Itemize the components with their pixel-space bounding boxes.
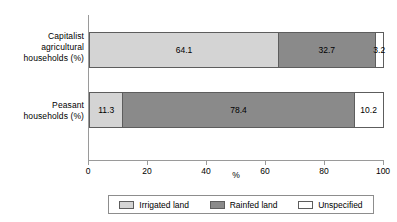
bar-segment-value: 10.2 [360,105,377,115]
legend-item-irrigated: Irrigated land [119,200,189,210]
x-axis-tick-mark [324,161,325,165]
category-label-peasant: Peasant households (%) [4,100,84,122]
x-axis-tick-mark [383,161,384,165]
bar-segment-value: 3.2 [373,45,385,55]
legend-label: Unspecified [318,200,362,210]
bar-row-peasant: 11.3 78.4 10.2 [89,92,384,128]
category-label-line: households (%) [4,53,84,64]
x-axis-tick-mark [88,161,89,165]
bar-segment-irrigated: 64.1 [89,32,278,68]
category-label-line: Capitalist [4,31,84,42]
x-axis-tick-mark [265,161,266,165]
legend-swatch-icon [298,201,313,209]
category-label-line: households (%) [4,111,84,122]
x-axis-tick-mark [147,161,148,165]
x-axis-tick-mark [206,161,207,165]
x-axis-line [88,160,384,161]
bar-segment-rainfed: 32.7 [278,32,374,68]
legend-item-rainfed: Rainfed land [210,200,278,210]
chart-legend: Irrigated land Rainfed land Unspecified [108,195,374,214]
plot-area: 020406080100 64.1 32.7 3.2 11.3 78.4 10.… [88,15,383,160]
legend-label: Irrigated land [139,200,189,210]
bar-segment-rainfed: 78.4 [122,92,353,128]
bar-segment-value: 32.7 [319,45,336,55]
category-label-capitalist: Capitalist agricultural households (%) [4,31,84,64]
category-label-line: agricultural [4,42,84,53]
category-label-line: Peasant [4,100,84,111]
bar-segment-value: 78.4 [230,105,247,115]
x-axis-title: % [88,170,384,180]
legend-swatch-icon [119,201,134,209]
legend-label: Rainfed land [230,200,278,210]
bar-row-capitalist: 64.1 32.7 3.2 [89,32,384,68]
legend-item-unspecified: Unspecified [298,200,362,210]
bar-segment-unspecified: 3.2 [375,32,384,68]
bar-segment-irrigated: 11.3 [89,92,122,128]
stacked-bar-chart: Capitalist agricultural households (%) P… [0,0,397,222]
legend-swatch-icon [210,201,225,209]
bar-segment-unspecified: 10.2 [354,92,384,128]
bar-segment-value: 11.3 [98,105,114,115]
bar-segment-value: 64.1 [176,45,193,55]
